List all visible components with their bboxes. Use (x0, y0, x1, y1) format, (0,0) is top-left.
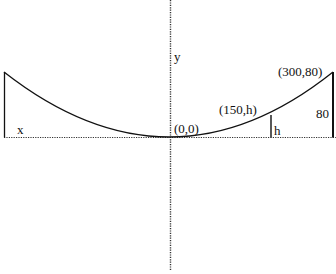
mid-height-label: h (274, 123, 281, 138)
x-axis-label: x (17, 122, 24, 137)
end-height-label: 80 (316, 106, 329, 121)
parabola-curve (4, 72, 333, 137)
endpoint-label: (300,80) (278, 64, 322, 79)
origin-label: (0,0) (174, 121, 199, 136)
parabola-diagram: x y (0,0) (150,h) (300,80) h 80 (0, 0, 336, 274)
y-axis-label: y (174, 49, 181, 64)
midpoint-label: (150,h) (219, 102, 257, 117)
